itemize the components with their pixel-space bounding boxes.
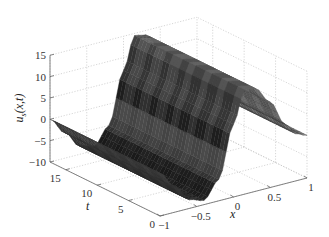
t-tick-label: 0 [150,218,156,230]
x-axis-label: x [229,207,236,221]
x-tick-label: 0 [235,200,241,212]
t-tick-label: 5 [118,203,124,215]
z-tick-label: −10 [29,156,47,168]
t-axis-label: t [86,199,90,213]
t-tick-label: 15 [50,172,62,184]
t-tick-label: 10 [81,187,93,199]
x-tick-label: −1 [158,219,170,231]
z-label-tail: (x,t) [12,94,26,114]
x-tick-label: 1 [308,181,314,193]
z-tick-label: 15 [35,49,47,61]
surface-plot: −10−5051015051015−1−0.500.51 x t us(x,t) [0,0,329,237]
x-tick-label: 0.5 [267,191,281,203]
svg-text:us(x,t): us(x,t) [12,94,28,123]
z-tick-label: 0 [41,113,47,125]
x-tick-label: −0.5 [191,210,211,222]
z-tick-label: −5 [34,135,46,147]
z-axis-label: us(x,t) [12,94,28,123]
surface [50,35,307,201]
z-tick-label: 5 [41,92,47,104]
z-tick-label: 10 [35,71,47,83]
